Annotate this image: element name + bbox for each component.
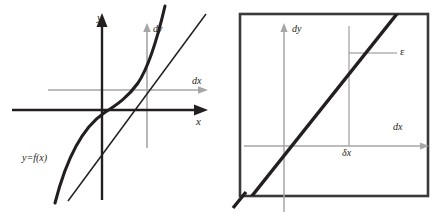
x-axis-label: x xyxy=(196,116,201,127)
dy-axis-right xyxy=(280,23,287,212)
dx-axis-label-left: dx xyxy=(192,76,201,86)
dy-axis-label-left: dy xyxy=(153,24,162,34)
function-curve xyxy=(55,6,165,203)
delta-x-label: δx xyxy=(342,148,351,158)
curve-equation-label: y=f(x) xyxy=(22,153,47,163)
tangent-line xyxy=(68,14,206,201)
figure-canvas: y x dy dx y=f(x) xyxy=(0,0,445,216)
differential-line xyxy=(236,0,408,216)
dy-axis-left xyxy=(143,23,151,148)
y-axis-label: y xyxy=(97,12,102,23)
right-panel-graphics xyxy=(222,0,445,216)
epsilon-label: ε xyxy=(400,46,405,57)
function-and-tangent-panel: y x dy dx y=f(x) xyxy=(0,0,222,216)
left-panel-graphics xyxy=(0,0,222,216)
differential-zoom-panel: dy dx δx ε xyxy=(222,0,445,216)
dx-axis-label-right: dx xyxy=(393,122,402,132)
dx-axis-right xyxy=(244,142,429,149)
y-axis xyxy=(97,13,108,200)
dy-axis-label-right: dy xyxy=(292,24,301,34)
panel-border xyxy=(240,14,428,196)
